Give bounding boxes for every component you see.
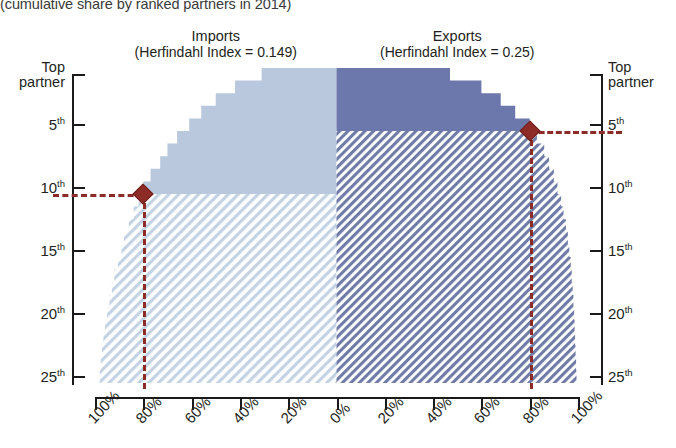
- y-axis-label-left-15: 15th: [0, 242, 65, 258]
- exports-marker-guide-vertical: [530, 131, 533, 389]
- y-tick-left-15: [72, 250, 85, 252]
- chart-subtitle: (cumulative share by ranked partners in …: [0, 0, 420, 12]
- area-series-svg: [95, 68, 578, 383]
- y-axis-right: [601, 74, 603, 385]
- y-tick-left-5: [72, 124, 85, 126]
- y-tick-left-25: [72, 376, 85, 378]
- y-tick-right-10: [590, 187, 603, 189]
- y-tick-right-5: [590, 124, 603, 126]
- y-tick-left-20: [72, 313, 85, 315]
- imports-hatched-region: [100, 194, 337, 383]
- panel-index-imports: (Herfindahl Index = 0.149): [95, 45, 337, 60]
- y-axis-label-left-1: Toppartner: [0, 60, 65, 91]
- panel-index-exports: (Herfindahl Index = 0.25): [337, 45, 579, 60]
- y-axis-label-right-20: 20th: [608, 305, 633, 321]
- chart-root: (cumulative share by ranked partners in …: [0, 0, 676, 448]
- y-tick-left-10: [72, 187, 85, 189]
- y-tick-right-1: [590, 74, 603, 76]
- y-axis-label-right-1: Toppartner: [608, 60, 654, 91]
- x-axis-label-10: 100%: [567, 387, 606, 427]
- exports-solid-region: [337, 68, 530, 131]
- y-axis-left: [72, 74, 74, 385]
- plot-clip: [95, 68, 578, 383]
- y-tick-right-15: [590, 250, 603, 252]
- imports-solid-region: [143, 68, 336, 194]
- y-axis-label-left-25: 25th: [0, 368, 65, 384]
- exports-marker-guide-horizontal: [530, 131, 622, 134]
- y-axis-label-right-5: 5th: [608, 116, 624, 132]
- panel-title-exports: Exports (Herfindahl Index = 0.25): [337, 29, 579, 60]
- y-axis-label-right-25: 25th: [608, 368, 633, 384]
- y-tick-right-25: [590, 376, 603, 378]
- imports-marker-guide-horizontal: [53, 194, 143, 197]
- y-tick-right-20: [590, 313, 603, 315]
- panel-name-imports: Imports: [95, 29, 337, 45]
- panel-title-imports: Imports (Herfindahl Index = 0.149): [95, 29, 337, 60]
- y-axis-label-left-5: 5th: [0, 116, 65, 132]
- exports-hatched-region: [337, 131, 577, 383]
- plot-area: [95, 68, 578, 383]
- x-axis-label-0: 100%: [84, 387, 123, 427]
- panel-name-exports: Exports: [337, 29, 579, 45]
- y-tick-left-1: [72, 74, 85, 76]
- imports-marker-guide-vertical: [143, 194, 146, 389]
- y-axis-label-left-10: 10th: [0, 179, 65, 195]
- y-axis-label-right-15: 15th: [608, 242, 633, 258]
- x-axis-label-5: 0%: [326, 399, 353, 426]
- y-axis-label-left-20: 20th: [0, 305, 65, 321]
- y-axis-label-right-10: 10th: [608, 179, 633, 195]
